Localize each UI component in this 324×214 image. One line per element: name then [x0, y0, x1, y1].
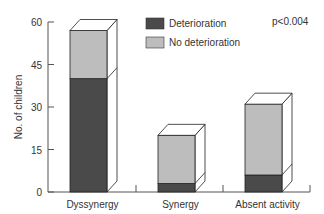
bar-segment-no-deterioration	[245, 104, 282, 175]
y-tick-label: 15	[31, 145, 43, 156]
p-value-annotation: p<0.004	[272, 16, 309, 27]
bar-segment-deterioration	[245, 175, 282, 192]
x-category-label: Dyssynergy	[66, 199, 118, 210]
bar-dyssynergy	[70, 20, 117, 193]
x-category-label: Synergy	[162, 199, 199, 210]
legend-label-deterioration: Deterioration	[169, 18, 226, 29]
legend-swatch-deterioration	[146, 18, 164, 29]
bar-synergy	[158, 124, 205, 192]
bar-segment-deterioration	[158, 184, 195, 193]
y-axis-label: No. of children	[13, 75, 24, 139]
bar-segment-no-deterioration	[70, 31, 107, 79]
bar-segment-deterioration	[70, 79, 107, 192]
legend-label-no-deterioration: No deterioration	[169, 37, 240, 48]
y-tick-label: 45	[31, 60, 43, 71]
bar-absent-activity	[245, 93, 292, 192]
x-category-label: Absent activity	[235, 199, 299, 210]
bar-side-face	[107, 20, 117, 193]
y-tick-label: 30	[31, 102, 43, 113]
y-tick-label: 0	[36, 187, 42, 198]
y-tick-label: 60	[31, 17, 43, 28]
bar-segment-no-deterioration	[158, 135, 195, 183]
bar-side-face	[282, 93, 292, 192]
legend-swatch-no-deterioration	[146, 37, 164, 48]
stacked-bar-chart: 015304560 No. of children DyssynergySyne…	[0, 0, 324, 214]
legend: Deterioration No deterioration	[146, 18, 240, 48]
